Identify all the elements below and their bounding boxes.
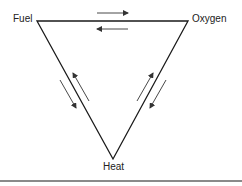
arrow-heat-to-fuel <box>73 73 89 101</box>
arrow-fuel-to-heat <box>60 80 76 108</box>
fire-triangle-diagram <box>0 0 242 186</box>
arrow-heat-to-oxygen <box>137 73 153 101</box>
label-oxygen: Oxygen <box>192 13 226 24</box>
arrow-oxygen-to-heat <box>150 80 166 108</box>
bottom-rule <box>0 180 242 182</box>
label-fuel: Fuel <box>13 13 32 24</box>
label-heat: Heat <box>103 161 124 172</box>
triangle-outline <box>37 21 188 159</box>
